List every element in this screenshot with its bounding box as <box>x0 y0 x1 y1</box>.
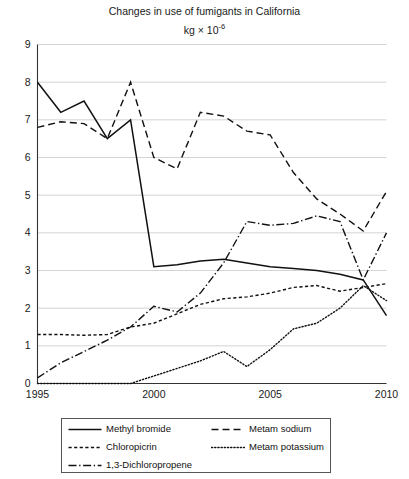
legend-item-label: Methyl bromide <box>106 424 171 434</box>
y-tick-label: 2 <box>25 302 31 314</box>
y-tick-label: 4 <box>25 226 31 238</box>
legend-item[interactable]: Methyl bromide <box>68 424 211 434</box>
dash-dot-line-key <box>68 461 102 470</box>
dotted-line-key <box>211 443 245 452</box>
x-tick-label: 2005 <box>258 388 282 400</box>
y-tick-label: 7 <box>25 113 31 125</box>
y-axis-tick-labels: 0123456789 <box>25 38 31 389</box>
y-tick-label: 9 <box>25 38 31 50</box>
legend: Methyl bromideMetam sodiumChloropicrinMe… <box>61 418 331 473</box>
legend-item[interactable]: Metam sodium <box>211 424 338 434</box>
series-line <box>38 284 387 336</box>
series-line <box>38 216 387 378</box>
chart-figure: Changes in use of fumigants in Californi… <box>0 0 409 479</box>
legend-item-label: Chloropicrin <box>106 442 157 452</box>
line-chart-svg: 0123456789 1995200020052010 <box>0 0 409 410</box>
gridlines <box>38 45 387 346</box>
x-tick-label: 2010 <box>375 388 399 400</box>
series-line <box>38 82 387 231</box>
legend-item[interactable]: Chloropicrin <box>68 442 211 452</box>
legend-grid: Methyl bromideMetam sodiumChloropicrinMe… <box>62 419 330 472</box>
x-tick-label: 2000 <box>142 388 166 400</box>
plot-area: 0123456789 1995200020052010 <box>0 0 409 410</box>
legend-item[interactable]: Metam potassium <box>211 442 338 452</box>
solid-line-key <box>68 425 102 434</box>
y-tick-label: 3 <box>25 264 31 276</box>
dashed-line-key <box>211 425 245 434</box>
y-tick-label: 8 <box>25 76 31 88</box>
y-tick-label: 5 <box>25 189 31 201</box>
y-tick-label: 1 <box>25 339 31 351</box>
x-tick-label: 1995 <box>26 388 50 400</box>
short-dash-line-key <box>68 443 102 452</box>
axis-lines <box>38 45 387 384</box>
y-tick-label: 6 <box>25 151 31 163</box>
legend-item[interactable]: 1,3-Dichloropropene <box>68 460 211 470</box>
legend-item-label: Metam sodium <box>249 424 311 434</box>
legend-item-label: 1,3-Dichloropropene <box>106 460 192 470</box>
x-axis-tick-labels: 1995200020052010 <box>26 388 399 400</box>
legend-item-label: Metam potassium <box>249 442 324 452</box>
series-line <box>38 82 387 316</box>
